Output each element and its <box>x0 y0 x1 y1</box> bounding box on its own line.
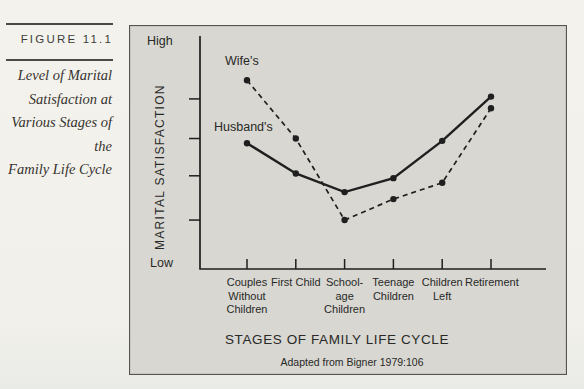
y-axis-low-label: Low <box>150 256 173 270</box>
figure-caption: Level of Marital Satisfaction at Various… <box>0 64 112 182</box>
axes <box>200 36 546 269</box>
x-category-label-4: Teenage Children <box>367 276 419 303</box>
wifes-line <box>247 80 491 220</box>
data-point <box>293 135 299 141</box>
y-axis-title: MARITAL SATISFACTION <box>153 64 167 250</box>
x-category-label-1: Couples Without Children <box>221 276 273 317</box>
data-point <box>439 138 445 144</box>
data-point <box>439 180 445 186</box>
data-point <box>488 105 494 111</box>
data-point <box>341 189 347 195</box>
data-point <box>390 196 396 202</box>
figure-caption-line: Satisfaction at <box>0 88 112 112</box>
data-point <box>244 140 250 146</box>
data-point <box>341 217 347 223</box>
data-point <box>293 170 299 176</box>
figure-caption-line: Level of Marital <box>0 64 112 88</box>
x-category-label-3: School-age Children <box>319 276 371 317</box>
data-point <box>488 93 494 99</box>
x-axis-title: STAGES OF FAMILY LIFE CYCLE <box>225 332 449 347</box>
series-label-wife: Wife's <box>225 54 259 68</box>
series-label-husband: Husband's <box>214 120 273 134</box>
x-category-label-5: Children Left <box>416 276 468 303</box>
y-axis-high-label: High <box>147 34 173 48</box>
x-category-label-6: Retirement <box>465 276 517 290</box>
chart-plot <box>130 26 565 373</box>
figure-caption-line: Family Life Cycle <box>0 158 112 182</box>
data-point <box>390 175 396 181</box>
source-note: Adapted from Bigner 1979:106 <box>280 356 423 368</box>
sidebar-mid-rule <box>6 59 113 61</box>
figure-number-label: FIGURE 11.1 <box>4 33 113 45</box>
data-point <box>244 77 250 83</box>
figure-caption-line: Various Stages of the <box>0 111 112 158</box>
husbands-line <box>247 97 491 193</box>
sidebar-top-rule <box>6 23 113 25</box>
page: { "figure": { "label": "FIGURE 11.1", "c… <box>0 0 584 389</box>
chart-frame: High Low MARITAL SATISFACTION Wife's Hus… <box>129 25 567 375</box>
x-category-label-2: First Child <box>270 276 322 290</box>
